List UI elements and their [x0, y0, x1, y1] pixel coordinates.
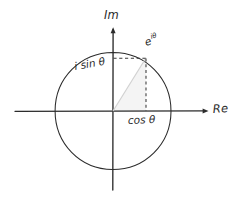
real-component-label: cos θ — [128, 113, 156, 126]
figure-canvas: Im Re e iθ i sin θ cos θ — [0, 0, 243, 207]
euler-exponent-label: iθ — [149, 31, 158, 41]
imaginary-component-label: i sin θ — [73, 55, 106, 72]
real-axis — [15, 108, 209, 113]
imaginary-axis-label: Im — [104, 8, 119, 22]
euler-point-label: e iθ — [143, 31, 160, 48]
complex-plane-figure: Im Re e iθ i sin θ cos θ — [0, 0, 243, 207]
real-axis-label: Re — [212, 101, 228, 116]
imaginary-axis-arrowhead — [111, 27, 116, 33]
real-axis-arrowhead — [203, 108, 209, 113]
